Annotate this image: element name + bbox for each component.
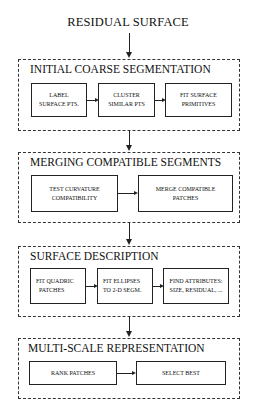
stage-merging-compatible-segments: MERGING COMPATIBLE SEGMENTS TEST CURVATU… (18, 152, 240, 223)
arrow-head-icon (126, 331, 132, 337)
step-text: SIZE, RESIDUAL, ... (170, 286, 223, 295)
stage-surface-description: SURFACE DESCRIPTION FIT QUADRIC PATCHES … (18, 246, 240, 317)
step-find-attributes: FIND ATTRIBUTES: SIZE, RESIDUAL, ... (163, 268, 229, 304)
step-text: PATCHES (36, 286, 64, 295)
step-fit-quadric-patches: FIT QUADRIC PATCHES (30, 268, 86, 304)
step-text: COMPATIBILITY (52, 194, 97, 203)
input-label: RESIDUAL SURFACE (0, 15, 256, 30)
step-fit-ellipses: FIT ELLIPSES TO 2-D SEGM. (97, 268, 153, 304)
arrow-head-icon (126, 145, 132, 151)
flow-arrow-line (129, 317, 130, 332)
step-text: SURFACE PTS. (39, 100, 79, 109)
step-test-curvature-compatibility: TEST CURVATURE COMPATIBILITY (31, 175, 118, 212)
step-text: LABEL (49, 91, 68, 100)
flow-arrow-line (129, 131, 130, 146)
step-text: SIMILAR PTS (108, 100, 145, 109)
step-label-surface-pts: LABEL SURFACE PTS. (31, 83, 87, 117)
arrow-head-icon (126, 52, 132, 58)
flow-arrow-line (129, 33, 130, 53)
step-text: SELECT BEST (162, 369, 200, 378)
arrow-head-icon (126, 239, 132, 245)
step-select-best: SELECT BEST (136, 361, 226, 385)
step-text: TEST CURVATURE (49, 185, 99, 194)
step-text: RANK PATCHES (51, 369, 95, 378)
step-text: FIT QUADRIC (36, 277, 74, 286)
stage-multi-scale-representation: MULTI-SCALE REPRESENTATION RANK PATCHES … (18, 338, 240, 399)
step-cluster-similar-pts: CLUSTER SIMILAR PTS (98, 83, 155, 117)
step-fit-surface-primitives: FIT SURFACE PRIMITIVES (165, 83, 232, 117)
step-text: PATCHES (173, 194, 198, 203)
stage-initial-coarse-segmentation: INITIAL COARSE SEGMENTATION LABEL SURFAC… (18, 59, 240, 131)
step-merge-compatible-patches: MERGE COMPATIBLE PATCHES (138, 175, 233, 212)
stage-title: INITIAL COARSE SEGMENTATION (30, 63, 211, 75)
step-text: FIND ATTRIBUTES: (170, 277, 223, 286)
stage-title: MULTI-SCALE REPRESENTATION (28, 342, 205, 354)
step-text: TO 2-D SEGM. (103, 286, 141, 295)
stage-title: SURFACE DESCRIPTION (30, 250, 159, 262)
stage-title: MERGING COMPATIBLE SEGMENTS (30, 156, 221, 168)
step-text: FIT SURFACE (180, 91, 217, 100)
flow-arrow-line (129, 223, 130, 240)
step-text: PRIMITIVES (182, 100, 216, 109)
step-text: FIT ELLIPSES (103, 277, 140, 286)
step-text: MERGE COMPATIBLE (156, 185, 216, 194)
step-rank-patches: RANK PATCHES (29, 361, 117, 385)
step-text: CLUSTER (113, 91, 140, 100)
